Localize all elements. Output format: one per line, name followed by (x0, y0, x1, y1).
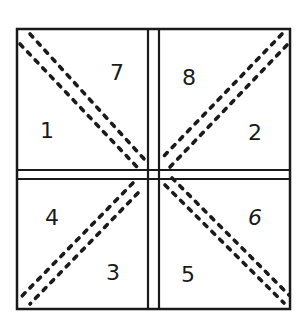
number-6: 6 (248, 205, 262, 230)
number-2: 2 (248, 120, 262, 145)
diagonal-top-right (162, 34, 287, 167)
number-7: 7 (110, 60, 124, 85)
diagonal-bottom-left (22, 183, 138, 304)
number-4: 4 (45, 205, 59, 230)
number-5: 5 (181, 262, 195, 287)
diagonal-top-left (20, 34, 145, 168)
number-1: 1 (40, 118, 54, 143)
number-8: 8 (182, 65, 196, 90)
quilt-diagram: 7 1 8 2 4 3 6 5 (0, 0, 307, 320)
number-3: 3 (106, 260, 120, 285)
